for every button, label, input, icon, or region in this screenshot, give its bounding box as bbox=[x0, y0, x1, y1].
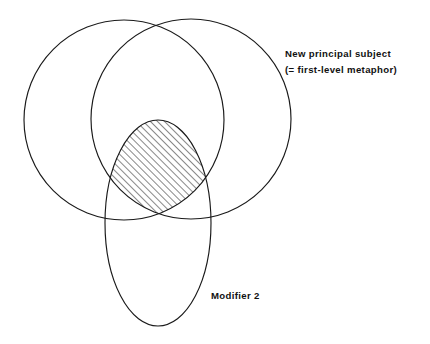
venn-diagram-figure: New principal subject (= first-level met… bbox=[0, 0, 430, 344]
diagram-canvas: New principal subject (= first-level met… bbox=[0, 0, 430, 344]
label-modifier-2: Modifier 2 bbox=[211, 290, 260, 301]
label-new-principal-subject-line2: (= first-level metaphor) bbox=[285, 64, 397, 75]
label-new-principal-subject-line1: New principal subject bbox=[285, 48, 391, 59]
